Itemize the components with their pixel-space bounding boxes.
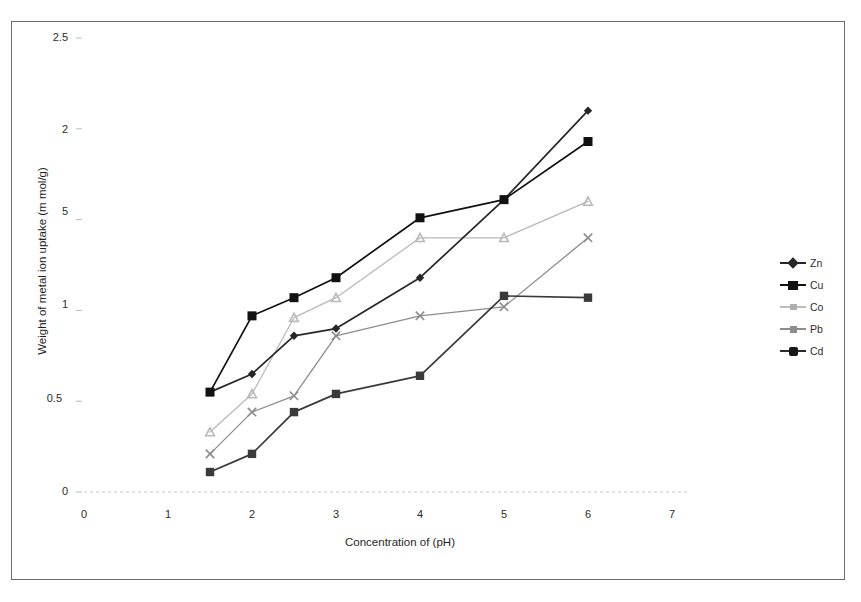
data-point-marker xyxy=(206,388,215,397)
data-point-marker xyxy=(332,273,341,282)
x-tick-label: 3 xyxy=(321,508,351,520)
data-point-marker xyxy=(332,324,340,332)
x-tick-label: 2 xyxy=(237,508,267,520)
legend-marker-diamond-icon xyxy=(780,257,806,269)
series-zn xyxy=(206,106,592,396)
data-point-marker xyxy=(332,390,340,398)
legend-marker-cross-icon xyxy=(780,323,806,335)
data-point-marker xyxy=(290,392,298,400)
series-cd xyxy=(206,292,592,477)
data-point-marker xyxy=(584,293,592,301)
y-tick-label: 0.5 xyxy=(22,392,62,404)
y-tick-label: 5 xyxy=(28,205,68,217)
y-tick-label: 2 xyxy=(28,123,68,135)
series-cu xyxy=(206,137,593,397)
x-tick-label: 1 xyxy=(153,508,183,520)
data-point-marker xyxy=(500,195,509,204)
legend-item-co[interactable]: Co xyxy=(780,296,850,318)
y-tick-label: 0 xyxy=(28,485,68,497)
series-pb xyxy=(206,234,592,459)
series-line xyxy=(210,201,588,432)
series-line xyxy=(210,142,588,393)
y-tick-label: 1 xyxy=(28,298,68,310)
plot-area: 2.5 2 5 1 0.5 0 0 1 2 3 4 5 6 7 Weight o… xyxy=(0,0,861,602)
x-axis-title: Concentration of (pH) xyxy=(250,536,550,548)
data-point-marker xyxy=(248,408,256,416)
data-point-marker xyxy=(290,408,298,416)
data-point-marker xyxy=(248,311,257,320)
data-point-marker xyxy=(206,450,214,458)
y-tick-label: 2.5 xyxy=(28,31,68,43)
legend-marker-square-icon xyxy=(780,279,806,291)
legend-item-zn[interactable]: Zn xyxy=(780,252,850,274)
data-point-marker xyxy=(416,213,425,222)
x-tick-label: 6 xyxy=(573,508,603,520)
x-tick-label: 7 xyxy=(657,508,687,520)
legend-label: Pb xyxy=(810,323,823,335)
legend-item-pb[interactable]: Pb xyxy=(780,318,850,340)
legend-item-cd[interactable]: Cd xyxy=(780,340,850,362)
series-line xyxy=(210,111,588,393)
series-line xyxy=(210,296,588,472)
legend-label: Zn xyxy=(810,257,822,269)
legend-label: Cd xyxy=(810,345,823,357)
data-point-marker xyxy=(584,137,593,146)
data-point-marker xyxy=(584,234,592,242)
series-line xyxy=(210,238,588,454)
data-point-marker xyxy=(332,332,340,340)
data-point-marker xyxy=(416,372,424,380)
y-axis-title: Weight of metal ion uptake (m mol/g) xyxy=(36,131,48,391)
x-tick-label: 4 xyxy=(405,508,435,520)
x-tick-label: 0 xyxy=(69,508,99,520)
data-point-marker xyxy=(248,450,256,458)
legend-marker-circle-icon xyxy=(780,345,806,357)
legend-label: Cu xyxy=(810,279,823,291)
legend-label: Co xyxy=(810,301,823,313)
legend-item-cu[interactable]: Cu xyxy=(780,274,850,296)
data-point-marker xyxy=(290,293,299,302)
data-point-marker xyxy=(500,292,508,300)
chart-legend: Zn Cu Co Pb xyxy=(780,252,850,362)
x-tick-label: 5 xyxy=(489,508,519,520)
chart-page: 2.5 2 5 1 0.5 0 0 1 2 3 4 5 6 7 Weight o… xyxy=(0,0,861,602)
data-point-marker xyxy=(206,468,214,476)
legend-marker-triangle-icon xyxy=(780,301,806,313)
